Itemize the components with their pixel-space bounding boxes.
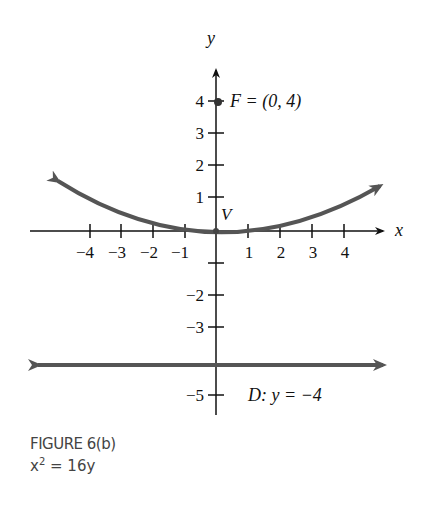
- x-tick-label: 2: [277, 243, 286, 262]
- y-tick-label: 2: [196, 156, 205, 175]
- vertex-label: V: [221, 205, 234, 224]
- y-tick-label: 3: [196, 124, 205, 143]
- y-tick-label: −5: [186, 386, 204, 405]
- equation-base: x: [30, 457, 39, 475]
- figure-title: FIGURE 6(b): [30, 436, 116, 453]
- x-tick-label: −4: [76, 243, 95, 262]
- figure-equation: x2 = 16y: [30, 453, 116, 475]
- vertex-point: [213, 228, 219, 234]
- focus-label: F = (0, 4): [229, 91, 301, 112]
- figure-caption: FIGURE 6(b) x2 = 16y: [30, 436, 116, 475]
- x-axis-label: x: [394, 220, 403, 240]
- y-tick-label: 1: [196, 188, 205, 207]
- y-axis-label: y: [205, 28, 215, 48]
- x-tick-label: 3: [309, 243, 318, 262]
- directrix-label: D: y = −4: [247, 385, 322, 405]
- y-tick-label: −3: [186, 318, 204, 337]
- x-tick-label: −1: [171, 243, 189, 262]
- y-tick-label: 4: [196, 92, 205, 111]
- focus-point: [214, 98, 222, 106]
- equation-rest: = 16y: [45, 457, 95, 475]
- x-tick-label: 4: [341, 243, 350, 262]
- x-tick-label: −3: [108, 243, 126, 262]
- x-tick-label: 1: [245, 243, 254, 262]
- y-tick-label: −2: [186, 286, 204, 305]
- x-tick-label: −2: [140, 243, 158, 262]
- parabola-curve: [58, 181, 380, 232]
